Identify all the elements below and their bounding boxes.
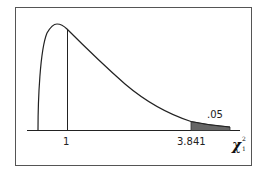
chi-symbol: χ [232, 137, 241, 153]
chart-frame [16, 8, 252, 166]
x-axis-label-chi-square: χ 2 1 [232, 138, 241, 152]
x-tick-label-1: 1 [63, 137, 69, 147]
chi-square-chart [0, 0, 267, 188]
x-tick-label-critical-value: 3.841 [177, 137, 206, 147]
chi-subscript: 1 [242, 146, 246, 152]
chi-superscript: 2 [242, 136, 246, 142]
tail-area-label: .05 [207, 110, 223, 120]
